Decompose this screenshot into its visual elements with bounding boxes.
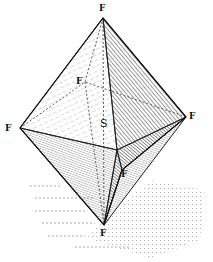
center-label: S <box>100 118 108 129</box>
vertex-label-right: F <box>189 112 195 121</box>
vertex-label-front: F <box>121 170 127 179</box>
face-upper-left <box>20 18 117 150</box>
vertex-label-back: F <box>76 77 82 86</box>
octahedron-diagram: F F F F F F S <box>0 0 213 262</box>
octahedron-drawing <box>0 0 213 262</box>
vertex-label-left: F <box>5 124 11 133</box>
vertex-label-top: F <box>99 4 105 13</box>
vertex-label-bottom: F <box>100 229 106 238</box>
